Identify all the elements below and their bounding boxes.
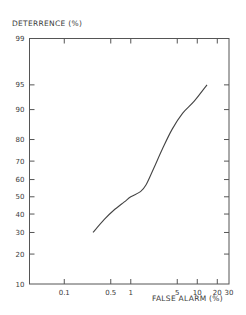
chart: DETERRENCE (%) FALSE ALARM (%) 0.10.5151… — [0, 0, 246, 315]
y-tick-label: 20 — [16, 251, 25, 259]
y-axis-label: DETERRENCE (%) — [12, 19, 82, 28]
y-tick-label: 10 — [16, 281, 25, 289]
x-ticks: 0.10.515102030 — [59, 39, 234, 298]
series-line — [93, 85, 207, 233]
x-tick-label: 30 — [225, 289, 234, 297]
series-group — [93, 85, 207, 233]
x-tick-label: 1 — [129, 289, 133, 297]
y-tick-label: 30 — [16, 229, 25, 237]
y-tick-label: 40 — [16, 211, 25, 219]
y-tick-label: 50 — [16, 193, 25, 201]
plot-frame — [30, 39, 230, 285]
y-tick-label: 99 — [16, 35, 25, 43]
y-tick-label: 95 — [16, 81, 25, 89]
x-tick-label: 20 — [213, 289, 222, 297]
y-tick-label: 90 — [16, 106, 25, 114]
y-tick-label: 60 — [16, 176, 25, 184]
x-tick-label: 0.1 — [59, 289, 70, 297]
y-tick-label: 70 — [16, 158, 25, 166]
y-tick-label: 80 — [16, 136, 25, 144]
y-ticks: 1020304050607080909599 — [16, 35, 229, 289]
x-tick-label: 0.5 — [105, 289, 116, 297]
x-tick-label: 5 — [175, 289, 179, 297]
x-tick-label: 10 — [193, 289, 202, 297]
